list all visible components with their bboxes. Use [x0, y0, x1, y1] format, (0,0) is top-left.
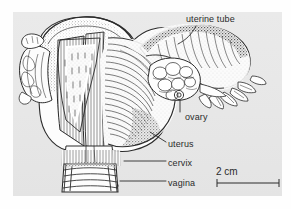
- anatomy-illustration: [0, 0, 291, 209]
- label-uterus: uterus: [168, 139, 194, 149]
- scale-bar: [217, 179, 279, 187]
- scale-bar-label: 2 cm: [216, 166, 238, 177]
- label-uterine-tube: uterine tube: [186, 14, 235, 24]
- label-ovary: ovary: [185, 112, 208, 122]
- figure-root: uterine tube ovary uterus cervix vagina …: [0, 0, 291, 209]
- label-cervix: cervix: [168, 158, 192, 168]
- cervix-vagina: [58, 144, 124, 192]
- label-vagina: vagina: [168, 178, 195, 188]
